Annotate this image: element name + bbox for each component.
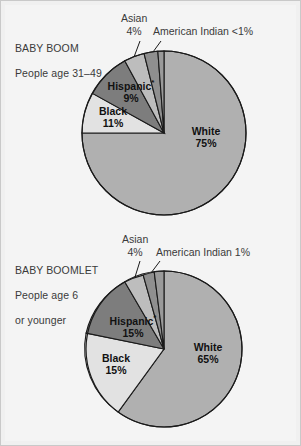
label-black-pct: 15% (89, 364, 143, 376)
chart-title-line1: BABY BOOMLET (15, 264, 98, 277)
label-hispanic-asterisk: * (153, 313, 156, 322)
callout-asian: Asian 4% (121, 12, 147, 37)
label-hispanic-pct: 9% (96, 92, 166, 104)
pie-chart-baby-boomlet: BABY BOOMLET People age 6 or younger Asi… (1, 217, 301, 446)
label-black-pct: 11% (86, 117, 140, 129)
callout-american-indian: American Indian 1% (156, 246, 250, 259)
chart-subtitle-line1: People age 31–49 (15, 67, 102, 80)
chart-subtitle-line2: or younger (15, 314, 98, 327)
label-hispanic-asterisk: * (151, 78, 154, 87)
callout-asian-label: Asian (121, 12, 147, 25)
label-white-name: White (194, 341, 223, 353)
callout-asian-label: Asian (122, 233, 148, 246)
label-hispanic-pct: 15% (96, 327, 170, 339)
label-hispanic-name: Hispanic (110, 315, 154, 327)
figure-panel: BABY BOOM People age 31–49 Asian 4% Amer… (0, 0, 301, 446)
callout-asian: Asian 4% (122, 233, 148, 258)
chart-title-line1: BABY BOOM (15, 42, 102, 55)
leader-line-american-indian (153, 41, 161, 52)
chart-subtitle-line1: People age 6 (15, 289, 98, 302)
label-white-pct: 65% (181, 353, 235, 365)
label-white: White 75% (179, 125, 233, 149)
label-hispanic: Hispanic* 15% (96, 312, 170, 339)
label-white-name: White (192, 125, 221, 137)
label-white-pct: 75% (179, 137, 233, 149)
label-black-name: Black (99, 105, 127, 117)
callout-american-indian: American Indian <1% (153, 25, 253, 38)
callout-asian-value: 4% (122, 246, 148, 259)
label-hispanic-name: Hispanic (108, 80, 152, 92)
label-black: Black 11% (86, 105, 140, 129)
label-hispanic: Hispanic* 9% (96, 77, 166, 104)
pie-chart-baby-boom: BABY BOOM People age 31–49 Asian 4% Amer… (1, 1, 301, 231)
label-black-name: Black (102, 352, 130, 364)
chart-title-baby-boom: BABY BOOM People age 31–49 (15, 29, 102, 92)
chart-title-baby-boomlet: BABY BOOMLET People age 6 or younger (15, 251, 98, 339)
label-white: White 65% (181, 341, 235, 365)
callout-asian-value: 4% (121, 25, 147, 38)
label-black: Black 15% (89, 352, 143, 376)
